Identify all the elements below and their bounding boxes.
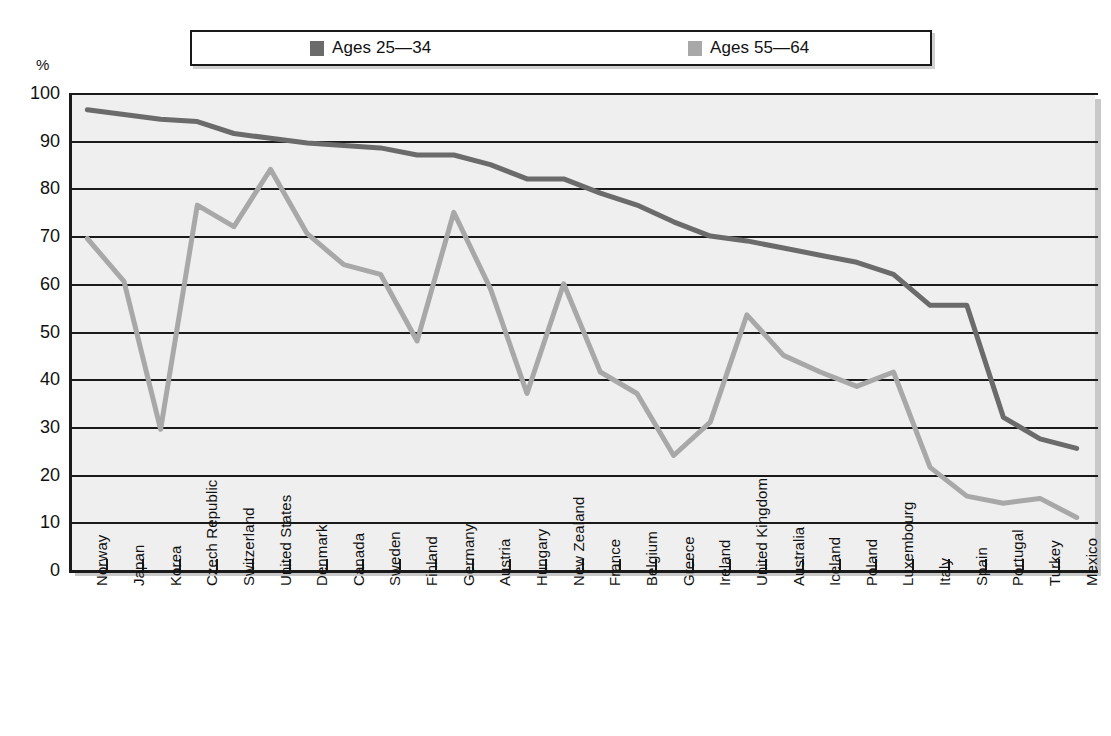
x-category-label: Australia <box>790 527 807 586</box>
x-category-label: Mexico <box>1083 538 1100 586</box>
x-category-label: Korea <box>167 545 184 586</box>
x-category-label: Hungary <box>533 529 550 586</box>
x-category-label: Sweden <box>386 531 403 586</box>
x-category-label: Greece <box>680 536 697 586</box>
x-category-label: Japan <box>130 545 147 586</box>
chart-root: Ages 25—34 Ages 55—64 % 0102030405060708… <box>0 0 1111 736</box>
x-category-label: Norway <box>93 535 110 586</box>
x-category-label: Finland <box>423 536 440 586</box>
x-category-label: Iceland <box>826 537 843 586</box>
x-category-label: Switzerland <box>240 507 257 586</box>
x-category-label: Belgium <box>643 531 660 586</box>
x-category-label: Spain <box>973 547 990 586</box>
x-category-label: France <box>606 539 623 586</box>
x-category-label: Portugal <box>1009 529 1026 586</box>
x-category-label: Canada <box>350 533 367 586</box>
x-category-label: United Kingdom <box>753 478 770 586</box>
x-category-label: Czech Republic <box>203 480 220 586</box>
x-category-label: Turkey <box>1046 540 1063 586</box>
x-category-label: United States <box>277 495 294 586</box>
x-category-label: Germany <box>460 524 477 586</box>
x-category-label: New Zealand <box>570 497 587 586</box>
x-category-label: Luxembourg <box>899 502 916 586</box>
x-category-label: Italy <box>936 558 953 586</box>
series-line-0 <box>87 110 1076 449</box>
series-line-1 <box>87 169 1076 517</box>
x-category-label: Ireland <box>716 539 733 586</box>
x-category-label: Austria <box>496 539 513 586</box>
x-category-label: Denmark <box>313 524 330 586</box>
series-lines <box>0 0 1111 736</box>
x-category-label: Poland <box>863 539 880 586</box>
